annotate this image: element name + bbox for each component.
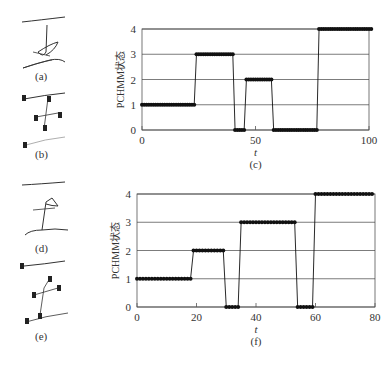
state-segment	[135, 277, 193, 281]
panel-label: (c)	[249, 158, 262, 171]
state-segment	[317, 27, 373, 31]
y-tick-label: 2	[131, 74, 137, 86]
chart-c: 01234050100t(c)PCHMM状态	[114, 23, 378, 171]
x-tick-label: 0	[139, 134, 145, 146]
y-tick-label: 3	[126, 216, 132, 228]
state-segment	[233, 128, 246, 132]
state-segment	[224, 305, 240, 309]
state-charts: 01234050100t(c)PCHMM状态 01234020406080t(f…	[0, 0, 390, 365]
state-segment	[272, 128, 319, 132]
state-segment	[314, 192, 375, 196]
y-tick-label: 0	[126, 301, 132, 313]
panel-label: (f)	[251, 335, 262, 348]
state-segment	[192, 249, 226, 253]
x-tick-label: 80	[370, 311, 382, 323]
y-tick-label: 4	[126, 188, 132, 200]
y-tick-label: 1	[126, 273, 132, 285]
x-tick-label: 20	[191, 311, 203, 323]
x-axis-label: t	[254, 323, 258, 335]
state-segment	[140, 103, 196, 107]
state-segment	[296, 305, 315, 309]
y-axis-label: PCHMM状态	[114, 51, 126, 108]
chart-f: 01234020406080t(f)PCHMM状态	[109, 188, 381, 348]
x-axis-label: t	[254, 146, 258, 158]
state-segment	[194, 52, 234, 56]
x-tick-label: 100	[361, 134, 378, 146]
y-tick-label: 0	[131, 124, 137, 136]
state-segment	[244, 78, 273, 82]
state-segment	[239, 220, 297, 224]
x-tick-label: 40	[251, 311, 263, 323]
y-tick-label: 4	[131, 23, 137, 35]
y-tick-label: 2	[126, 245, 132, 257]
y-tick-label: 3	[131, 48, 137, 60]
x-tick-label: 50	[250, 134, 262, 146]
y-tick-label: 1	[131, 99, 137, 111]
y-axis-label: PCHMM状态	[109, 222, 121, 279]
x-tick-label: 0	[134, 311, 140, 323]
x-tick-label: 60	[310, 311, 322, 323]
